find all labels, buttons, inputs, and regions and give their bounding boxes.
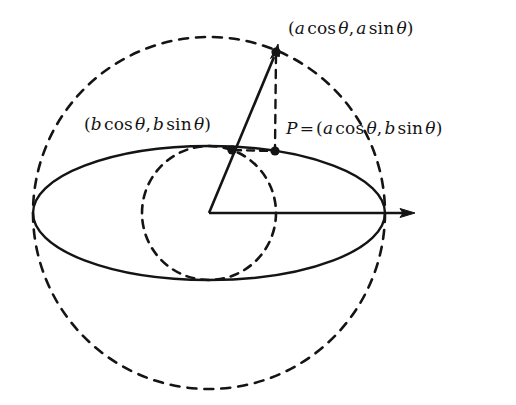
label-outer-angle-x: θ (338, 18, 348, 38)
horizontal-connector-dashed (234, 150, 272, 151)
point-ellipse-p (270, 146, 279, 155)
label-outer-coef-y: a (356, 18, 366, 38)
label-p-angle-x: θ (366, 118, 376, 138)
label-inner-comma: , (145, 114, 151, 134)
label-outer-coef-x: a (295, 18, 305, 38)
label-p-fn-y: sin (398, 118, 424, 138)
label-inner-angle-x: θ (135, 114, 145, 134)
label-ellipse-point-p: P=(acosθ,bsinθ) (286, 120, 443, 137)
label-inner-angle-y: θ (194, 114, 204, 134)
label-outer-comma: , (349, 18, 355, 38)
label-outer-fn-y: sin (369, 18, 395, 38)
label-p-coef-x: a (323, 118, 333, 138)
label-p-angle-y: θ (425, 118, 435, 138)
label-outer-circle-point: (acosθ,asinθ) (288, 20, 414, 37)
point-outer-circle (271, 47, 280, 56)
label-inner-coef-y: b (153, 114, 164, 134)
label-inner-open-paren: ( (84, 114, 91, 134)
label-inner-circle-point: (bcosθ,bsinθ) (84, 116, 211, 133)
label-p-fn-x: cos (335, 118, 364, 138)
point-inner-circle (227, 145, 236, 154)
figure-canvas (0, 0, 516, 405)
label-p-open-paren: ( (316, 118, 323, 138)
radius-ray-line (209, 57, 274, 213)
label-outer-close-paren: ) (407, 18, 414, 38)
label-p-comma: , (377, 118, 383, 138)
label-outer-angle-y: θ (396, 18, 406, 38)
label-inner-fn-y: sin (166, 114, 192, 134)
label-p-close-paren: ) (436, 118, 443, 138)
label-inner-close-paren: ) (204, 114, 211, 134)
label-p-equals: = (298, 118, 316, 138)
label-outer-fn-x: cos (307, 18, 336, 38)
ellipse-parametrization-figure: (acosθ,asinθ) (bcosθ,bsinθ) P=(acosθ,bsi… (0, 0, 516, 405)
label-outer-open-paren: ( (288, 18, 295, 38)
label-p-coef-y: b (384, 118, 395, 138)
vertical-connector-dashed (275, 55, 276, 149)
label-inner-fn-x: cos (104, 114, 133, 134)
label-p-name: P (286, 118, 298, 138)
label-inner-coef-x: b (91, 114, 102, 134)
